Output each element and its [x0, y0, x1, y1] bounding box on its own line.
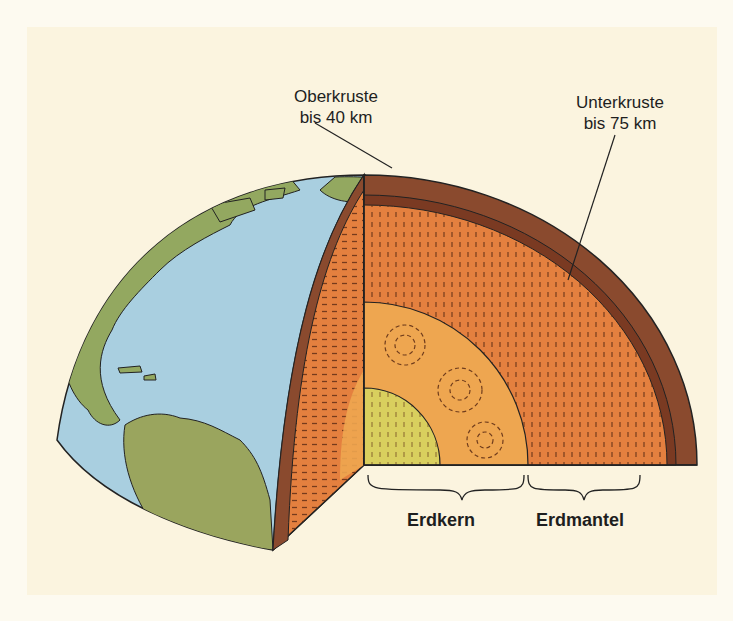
cross-section: [364, 175, 697, 465]
core-brace: [368, 475, 524, 500]
mantle-label: Erdmantel: [536, 510, 624, 531]
lower-crust-name: Unterkruste: [550, 92, 690, 113]
core-label: Erdkern: [407, 510, 475, 531]
upper-crust-depth: bis 40 km: [266, 107, 406, 128]
mantle-brace: [528, 475, 640, 500]
upper-crust-name: Oberkruste: [266, 86, 406, 107]
lower-crust-depth: bis 75 km: [550, 113, 690, 134]
upper-crust-leader-line: [315, 123, 392, 168]
lower-crust-label: Unterkruste bis 75 km: [550, 92, 690, 134]
upper-crust-label: Oberkruste bis 40 km: [266, 86, 406, 128]
